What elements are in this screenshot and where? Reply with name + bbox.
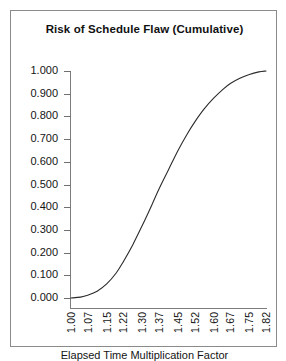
y-axis-tick	[64, 162, 71, 163]
y-axis-tick-label: 1.000	[12, 65, 58, 76]
y-axis-tick	[64, 139, 71, 140]
y-axis-tick-label: 0.700	[12, 133, 58, 144]
y-axis-tick	[64, 207, 71, 208]
y-axis-tick-label: 0.300	[12, 224, 58, 235]
x-axis-tick-label: 1.52	[189, 312, 201, 346]
x-axis-tick-label: 1.82	[260, 312, 272, 346]
y-axis-tick	[64, 275, 71, 276]
x-axis-tick-label: 1.67	[224, 312, 236, 346]
x-axis-tick-label: 1.15	[101, 312, 113, 346]
y-axis-tick	[64, 185, 71, 186]
x-axis-tick-label: 1.00	[65, 312, 77, 346]
y-axis-tick	[64, 253, 71, 254]
y-axis-tick	[64, 116, 71, 117]
x-axis-spine	[70, 308, 267, 309]
figure-frame: Risk of Schedule Flaw (Cumulative) 1.000…	[10, 10, 277, 347]
x-axis-tick-label: 1.37	[153, 312, 165, 346]
x-axis-tick-label: 1.22	[117, 312, 129, 346]
x-axis-title: Elapsed Time Multiplication Factor	[11, 349, 278, 361]
x-axis-tick-label: 1.07	[82, 312, 94, 346]
y-axis-tick-label: 0.500	[12, 179, 58, 190]
plot-area	[71, 71, 266, 298]
y-axis-tick	[64, 94, 71, 95]
x-axis-tick-label: 1.60	[208, 312, 220, 346]
x-axis-tick-label: 1.75	[243, 312, 255, 346]
chart-title: Risk of Schedule Flaw (Cumulative)	[11, 23, 278, 35]
y-axis-tick-label: 0.400	[12, 201, 58, 212]
curve-path	[71, 71, 266, 298]
cumulative-risk-curve	[71, 71, 266, 298]
y-axis-tick-label: 0.000	[12, 292, 58, 303]
x-axis-tick-label: 1.30	[136, 312, 148, 346]
y-axis-tick-label: 0.100	[12, 269, 58, 280]
y-axis-tick	[64, 298, 71, 299]
y-axis-tick-label: 0.200	[12, 247, 58, 258]
x-axis-tick-label: 1.45	[172, 312, 184, 346]
y-axis-tick-label: 0.800	[12, 110, 58, 121]
y-axis-tick-label: 0.600	[12, 156, 58, 167]
y-axis-tick	[64, 71, 71, 72]
y-axis-tick-label: 0.900	[12, 88, 58, 99]
y-axis-tick	[64, 230, 71, 231]
